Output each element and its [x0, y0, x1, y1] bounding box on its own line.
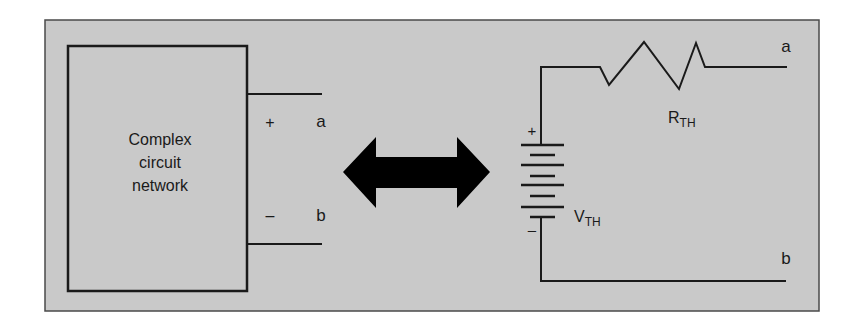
network-label-line-1: Complex	[128, 131, 191, 148]
left-minus-sign: –	[266, 207, 275, 224]
thevenin-equivalence-diagram: Complex circuit network + a – b + – RTH	[0, 0, 863, 330]
source-label-main: V	[574, 208, 585, 225]
network-label-line-3: network	[132, 177, 189, 194]
right-terminal-a-label: a	[781, 37, 791, 56]
right-plus-sign: +	[528, 122, 537, 139]
resistor-label-main: R	[668, 109, 680, 126]
network-label-line-2: circuit	[139, 154, 181, 171]
left-terminal-b-label: b	[316, 206, 325, 225]
source-label-subscript: TH	[585, 215, 601, 229]
right-terminal-b-label: b	[781, 249, 790, 268]
right-minus-sign: –	[528, 221, 537, 238]
resistor-label-subscript: TH	[680, 116, 696, 130]
left-terminal-a-label: a	[316, 112, 326, 131]
left-plus-sign: +	[265, 114, 274, 131]
